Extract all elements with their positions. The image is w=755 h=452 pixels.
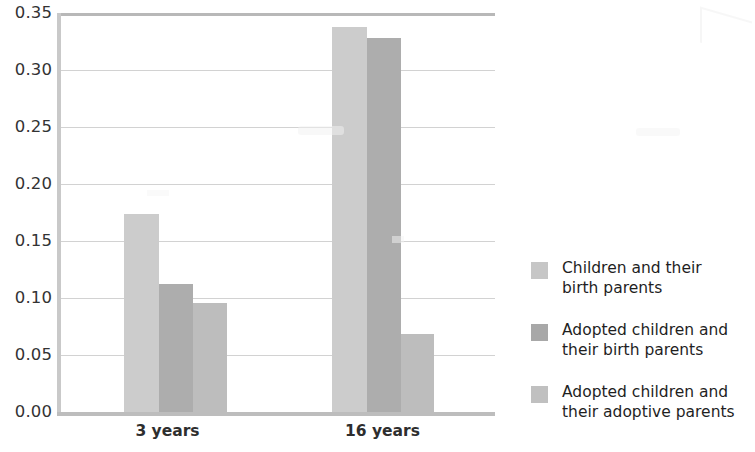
bar-chart: 0.35 0.30 0.25 0.20 0.15 0.10 0.05 0.00 … bbox=[0, 0, 755, 452]
legend-item-children-birth-parents[interactable]: Children and their birth parents bbox=[531, 258, 702, 299]
legend-item-label: Children and their birth parents bbox=[562, 258, 702, 299]
gridline-0.25 bbox=[61, 127, 495, 128]
legend-item-adopted-adoptive-parents[interactable]: Adopted children and their adoptive pare… bbox=[531, 382, 735, 423]
bar-3years-children-birth-parents bbox=[124, 214, 159, 412]
x-axis-line bbox=[57, 412, 495, 416]
y-axis-tick-label: 0.05 bbox=[0, 347, 52, 364]
x-axis-label-3-years: 3 years bbox=[115, 424, 220, 440]
legend-swatch-icon bbox=[531, 262, 548, 279]
bar-16years-adopted-birth-parents bbox=[367, 38, 401, 412]
y-axis-tick-label: 0.15 bbox=[0, 233, 52, 250]
plot-area bbox=[57, 13, 495, 412]
bar-3years-adopted-adoptive-parents bbox=[193, 303, 227, 412]
legend-swatch-icon bbox=[531, 386, 548, 403]
y-axis-tick-label: 0.20 bbox=[0, 176, 52, 193]
y-axis-tick-label: 0.10 bbox=[0, 290, 52, 307]
y-axis-tick-label: 0.00 bbox=[0, 404, 52, 421]
scan-artifact-chevron bbox=[700, 7, 752, 58]
legend-item-label: Adopted children and their adoptive pare… bbox=[562, 382, 735, 423]
x-axis-label-16-years: 16 years bbox=[330, 424, 435, 440]
bar-3years-adopted-birth-parents bbox=[159, 284, 193, 412]
gridline-0.30 bbox=[61, 70, 495, 71]
scan-artifact-smudge bbox=[636, 128, 680, 136]
y-axis-tick-label: 0.25 bbox=[0, 119, 52, 136]
y-axis-tick-label: 0.35 bbox=[0, 5, 52, 22]
gridline-0.20 bbox=[61, 184, 495, 185]
y-axis-line bbox=[57, 13, 61, 412]
plot-top-border bbox=[57, 13, 495, 16]
legend-item-label: Adopted children and their birth parents bbox=[562, 320, 728, 361]
bar-16years-children-birth-parents bbox=[332, 27, 367, 412]
legend-swatch-icon bbox=[531, 324, 548, 341]
legend-item-adopted-birth-parents[interactable]: Adopted children and their birth parents bbox=[531, 320, 728, 361]
bar-16years-adopted-adoptive-parents bbox=[401, 334, 434, 412]
y-axis-tick-label: 0.30 bbox=[0, 62, 52, 79]
